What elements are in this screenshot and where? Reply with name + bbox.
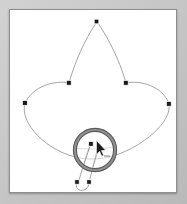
application-window: Vector Path Editor Canvas four-petal-flo… [0, 0, 187, 204]
drawing-canvas[interactable] [9, 9, 177, 193]
